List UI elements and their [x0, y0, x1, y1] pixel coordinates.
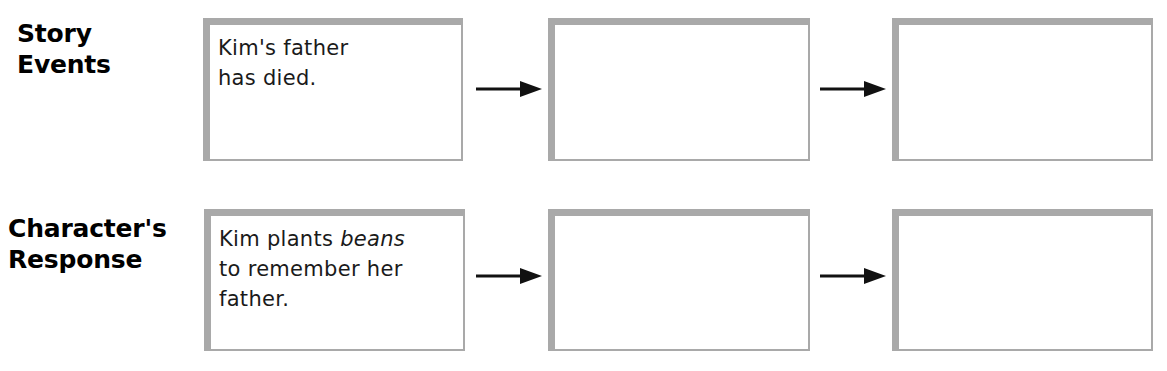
- story-events-box-3[interactable]: [892, 18, 1153, 161]
- characters-response-arrow-1: [476, 264, 542, 288]
- story-events-arrow-2: [820, 77, 886, 101]
- story-events-box-2-text: [563, 33, 798, 153]
- row-label-story-events: Story Events: [17, 18, 197, 80]
- row-label-characters-response: Character's Response: [8, 213, 203, 275]
- characters-response-box-1[interactable]: Kim plants beans to remember her father.: [204, 209, 465, 351]
- story-events-box-1-text: Kim's father has died.: [218, 33, 451, 153]
- characters-response-box-2-text: [563, 224, 798, 343]
- story-events-box-2[interactable]: [548, 18, 810, 161]
- characters-response-box-1-text: Kim plants beans to remember her father.: [219, 224, 453, 343]
- story-events-box-1[interactable]: Kim's father has died.: [203, 18, 463, 161]
- story-events-arrow-1: [476, 77, 542, 101]
- characters-response-arrow-2: [820, 264, 886, 288]
- characters-response-box-3[interactable]: [892, 209, 1153, 351]
- story-events-box-3-text: [907, 33, 1141, 153]
- characters-response-box-3-text: [907, 224, 1141, 343]
- characters-response-box-2[interactable]: [548, 209, 810, 351]
